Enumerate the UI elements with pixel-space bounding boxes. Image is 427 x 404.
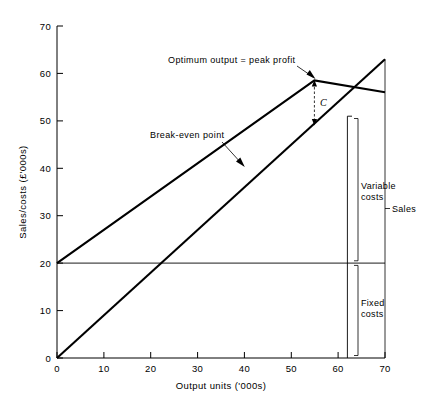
optimum-output-label: Optimum output = peak profit	[168, 55, 296, 65]
series-sales	[57, 59, 385, 358]
bracket-variable-costs: Variable costs	[354, 119, 396, 261]
series-total-costs	[57, 80, 385, 263]
x-axis-title: Output units ('000s)	[176, 380, 267, 391]
chart-canvas: 70 60 50 40 30 20 10 0 0 10 20 30 40	[0, 0, 427, 404]
x-tick-label-30: 30	[192, 363, 203, 374]
fixed-costs-label-line2: costs	[361, 309, 384, 319]
y-tick-labels: 70 60 50 40 30 20 10 0	[40, 21, 51, 364]
y-axis-title: Sales/costs (£'000s)	[17, 145, 28, 238]
bracket-sales: Sales	[385, 59, 416, 358]
variable-costs-label-line1: Variable	[361, 181, 396, 191]
x-tick-label-0: 0	[54, 363, 60, 374]
fixed-costs-label-line1: Fixed	[361, 298, 385, 308]
y-tick-label-0: 0	[45, 353, 51, 364]
sales-label: Sales	[392, 204, 416, 214]
x-tick-label-20: 20	[145, 363, 156, 374]
x-tick-label-60: 60	[333, 363, 344, 374]
breakeven-chart: 70 60 50 40 30 20 10 0 0 10 20 30 40	[0, 0, 427, 404]
x-tick-label-40: 40	[239, 363, 250, 374]
bracket-fixed-costs: Fixed costs	[354, 265, 385, 355]
x-tick-marks	[57, 352, 385, 358]
annotation-optimum-output: Optimum output = peak profit	[168, 55, 316, 79]
x-tick-label-50: 50	[286, 363, 297, 374]
variable-costs-label-line2: costs	[361, 192, 384, 202]
y-tick-label-30: 30	[40, 210, 51, 221]
x-tick-label-70: 70	[379, 363, 390, 374]
annotation-break-even: Break-even point	[150, 130, 245, 167]
y-tick-label-10: 10	[40, 305, 51, 316]
y-tick-label-20: 20	[40, 258, 51, 269]
x-tick-labels: 0 10 20 30 40 50 60 70	[54, 363, 390, 374]
profit-gap-label: C	[320, 97, 327, 108]
x-tick-label-10: 10	[98, 363, 109, 374]
y-tick-label-60: 60	[40, 68, 51, 79]
y-tick-label-70: 70	[40, 21, 51, 32]
y-tick-label-50: 50	[40, 115, 51, 126]
break-even-label: Break-even point	[150, 130, 225, 140]
y-tick-label-40: 40	[40, 163, 51, 174]
y-tick-marks	[57, 26, 63, 358]
output-drop-line	[347, 116, 352, 358]
